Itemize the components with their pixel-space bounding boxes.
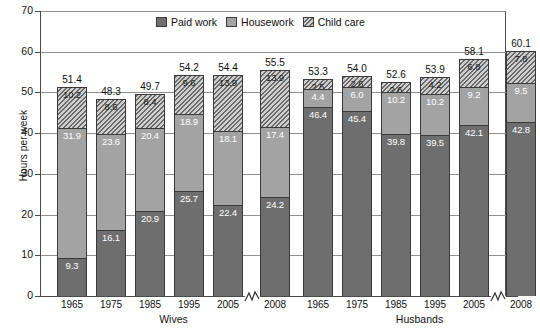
x-tick-label-wives-1965: 1965 [50, 299, 94, 311]
bar-wives-1995: 9.618.925.754.2 [174, 75, 204, 296]
segment-housework: 18.9 [174, 114, 204, 191]
segment-value-label: 2.6 [382, 84, 410, 93]
bar-husbands-1985: 2.610.239.852.6 [381, 82, 411, 296]
segment-value-label: 6.8 [460, 61, 488, 72]
axis-break-icon [244, 288, 260, 300]
y-tick-mark-10 [35, 255, 40, 256]
bar-husbands-1965: 2.54.446.453.3 [303, 79, 333, 296]
segment-paid-work: 22.4 [213, 205, 243, 296]
group-label-wives: Wives [114, 313, 234, 325]
bar-wives-2005: 13.918.122.454.4 [213, 75, 243, 296]
bar-husbands-2008: 7.89.542.860.1 [506, 51, 536, 296]
y-tick-label-70: 70 [0, 5, 33, 16]
segment-value-label: 10.2 [421, 96, 449, 107]
segment-child-care: 2.6 [342, 76, 372, 87]
segment-housework: 23.6 [96, 134, 126, 230]
y-tick-mark-0 [35, 296, 40, 297]
y-tick-label-0: 0 [0, 290, 33, 301]
legend-swatch-child-care-icon [303, 17, 314, 27]
x-tick-label-husbands-1965: 1965 [296, 299, 340, 311]
legend-label-child-care: Child care [318, 16, 365, 28]
gridline-70 [41, 11, 506, 12]
segment-value-label: 17.4 [261, 129, 289, 140]
segment-paid-work: 45.4 [342, 111, 372, 296]
segment-housework: 10.2 [381, 92, 411, 134]
legend-label-housework: Housework [241, 16, 294, 28]
segment-housework: 6.0 [342, 87, 372, 111]
segment-housework: 31.9 [57, 128, 87, 258]
segment-housework: 18.1 [213, 131, 243, 205]
segment-value-label: 31.9 [58, 130, 86, 141]
segment-value-label: 10.2 [382, 94, 410, 105]
x-axis-line [40, 296, 518, 297]
segment-housework: 4.4 [303, 89, 333, 107]
segment-housework: 17.4 [260, 127, 290, 198]
segment-child-care: 13.9 [260, 70, 290, 127]
segment-value-label: 4.4 [304, 91, 332, 102]
segment-value-label: 8.6 [97, 101, 125, 112]
bar-total-label: 54.2 [167, 62, 211, 73]
segment-child-care: 4.2 [420, 77, 450, 94]
segment-value-label: 4.2 [421, 79, 449, 90]
bar-wives-1965: 10.231.99.351.4 [57, 87, 87, 296]
y-tick-mark-60 [35, 52, 40, 53]
segment-value-label: 20.9 [136, 213, 164, 224]
segment-paid-work: 42.8 [506, 122, 536, 296]
segment-paid-work: 42.1 [459, 125, 489, 296]
segment-value-label: 22.4 [214, 207, 242, 218]
legend-item-housework: Housework [226, 16, 294, 28]
segment-value-label: 9.2 [460, 89, 488, 100]
x-tick-label-husbands-1985: 1985 [374, 299, 418, 311]
segment-paid-work: 25.7 [174, 191, 204, 296]
x-tick-label-wives-1995: 1995 [167, 299, 211, 311]
segment-child-care: 8.4 [135, 94, 165, 128]
segment-paid-work: 39.5 [420, 135, 450, 296]
bar-husbands-1975: 2.66.045.454.0 [342, 76, 372, 296]
segment-housework: 10.2 [420, 94, 450, 136]
legend: Paid work Housework Child care [156, 16, 365, 28]
y-tick-mark-30 [35, 174, 40, 175]
segment-value-label: 24.2 [261, 199, 289, 210]
segment-value-label: 9.5 [507, 85, 535, 96]
segment-housework: 9.5 [506, 83, 536, 122]
segment-child-care: 2.6 [381, 82, 411, 93]
segment-child-care: 8.6 [96, 99, 126, 134]
bar-total-label: 58.1 [452, 46, 496, 57]
bar-total-label: 60.1 [499, 38, 540, 49]
segment-housework: 20.4 [135, 128, 165, 211]
x-tick-label-husbands-1975: 1975 [335, 299, 379, 311]
segment-value-label: 6.0 [343, 89, 371, 100]
bar-wives-1975: 8.623.616.148.3 [96, 99, 126, 296]
bar-total-label: 52.6 [374, 69, 418, 80]
y-tick-label-10: 10 [0, 249, 33, 260]
segment-housework: 9.2 [459, 87, 489, 124]
segment-value-label: 9.3 [58, 260, 86, 271]
segment-value-label: 7.8 [507, 53, 535, 64]
x-tick-label-wives-2008: 2008 [253, 299, 297, 311]
segment-value-label: 18.1 [214, 133, 242, 144]
segment-value-label: 23.6 [97, 136, 125, 147]
segment-child-care: 9.6 [174, 75, 204, 114]
segment-value-label: 39.5 [421, 137, 449, 148]
legend-item-child-care: Child care [303, 16, 365, 28]
segment-paid-work: 20.9 [135, 211, 165, 296]
segment-child-care: 2.5 [303, 79, 333, 89]
legend-swatch-housework-icon [226, 17, 237, 27]
y-tick-mark-20 [35, 215, 40, 216]
bar-husbands-2005: 6.89.242.158.1 [459, 59, 489, 296]
segment-value-label: 42.1 [460, 127, 488, 138]
segment-value-label: 13.9 [214, 77, 242, 88]
bar-total-label: 55.5 [253, 57, 297, 68]
segment-child-care: 10.2 [57, 87, 87, 129]
segment-child-care: 7.8 [506, 51, 536, 83]
segment-paid-work: 39.8 [381, 134, 411, 296]
legend-swatch-paid-work-icon [156, 17, 167, 27]
segment-value-label: 18.9 [175, 116, 203, 127]
segment-value-label: 42.8 [507, 124, 535, 135]
y-tick-label-30: 30 [0, 168, 33, 179]
segment-value-label: 8.4 [136, 96, 164, 107]
segment-paid-work: 24.2 [260, 197, 290, 296]
bar-total-label: 53.3 [296, 66, 340, 77]
segment-value-label: 45.4 [343, 113, 371, 124]
